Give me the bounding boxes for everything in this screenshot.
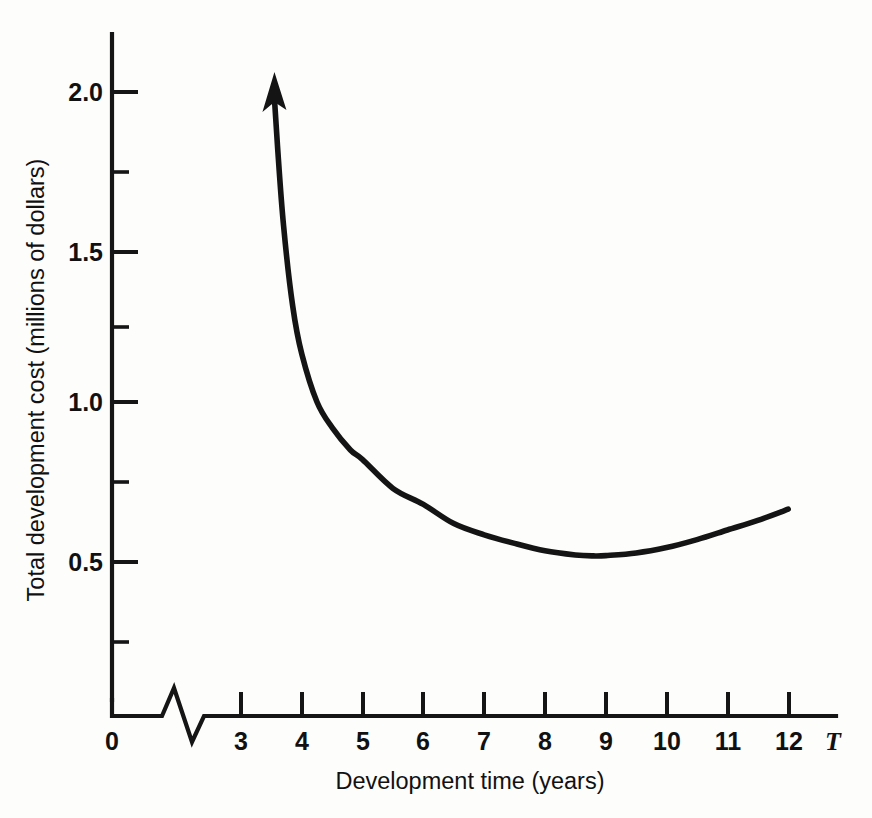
x-tick-label-4: 4 (295, 727, 309, 755)
x-tick-label-11: 11 (715, 727, 742, 755)
x-tick-label-7: 7 (477, 727, 491, 755)
x-tick-label-5: 5 (356, 727, 370, 755)
y-tick-label-2: 1.0 (68, 388, 103, 416)
x-tick-label-9: 9 (599, 727, 613, 755)
x-axis-title: Development time (years) (335, 768, 604, 794)
y-tick-label-0: 2.0 (68, 78, 103, 106)
cost-curve (274, 98, 788, 556)
x-tick-label-3: 3 (234, 727, 248, 755)
x-origin-label: 0 (105, 727, 119, 755)
y-tick-label-1: 1.5 (68, 238, 103, 266)
x-tick-label-8: 8 (538, 727, 552, 755)
x-tick-label-12: 12 (775, 727, 803, 755)
x-tick-label-6: 6 (416, 727, 430, 755)
chart-figure: 2.0 1.5 1.0 0.5 0 3 4 5 6 7 8 9 10 11 12… (0, 0, 872, 818)
x-axis-variable-label: T (825, 727, 842, 756)
y-tick-label-3: 0.5 (68, 548, 103, 576)
y-axis-title: Total development cost (millions of doll… (23, 159, 49, 602)
cost-vs-time-chart: 2.0 1.5 1.0 0.5 0 3 4 5 6 7 8 9 10 11 12… (0, 0, 872, 818)
x-tick-label-10: 10 (653, 727, 681, 755)
